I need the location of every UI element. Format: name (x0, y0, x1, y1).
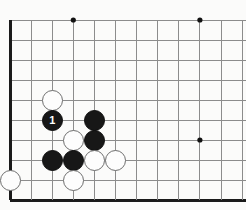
goban-grid (0, 0, 246, 210)
stone-white[interactable] (84, 150, 105, 171)
stone-white[interactable] (42, 90, 63, 111)
star-point (71, 17, 76, 22)
stone-white[interactable] (105, 150, 126, 171)
stone-black[interactable] (84, 110, 105, 131)
stone-white[interactable] (63, 130, 84, 151)
go-board-diagram: 1 (0, 0, 246, 210)
stone-black[interactable] (84, 130, 105, 151)
star-point (197, 17, 202, 22)
stone-white[interactable] (0, 170, 21, 191)
stone-white[interactable] (63, 170, 84, 191)
stone-black-move-1[interactable]: 1 (42, 110, 63, 131)
stone-black[interactable] (42, 150, 63, 171)
stone-black[interactable] (63, 150, 84, 171)
star-point (197, 137, 202, 142)
stone-move-number: 1 (43, 111, 62, 130)
